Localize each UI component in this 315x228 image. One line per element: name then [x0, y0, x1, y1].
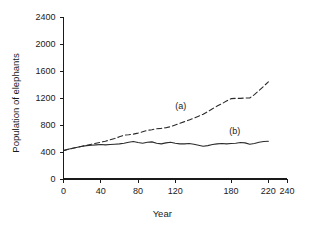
x-tick-label: 0 — [61, 186, 66, 196]
y-tick-label: 1600 — [35, 66, 55, 76]
x-tick-label: 120 — [168, 186, 183, 196]
series-annotation: (a) — [175, 101, 186, 111]
y-tick-label: 800 — [40, 120, 55, 130]
chart-figure: 04008001200160020002400 0408012018022024… — [0, 0, 315, 228]
y-tick-label: 0 — [50, 174, 55, 184]
y-tick-label: 2000 — [35, 39, 55, 49]
x-tick-label: 40 — [96, 186, 106, 196]
y-tick-label: 1200 — [35, 93, 55, 103]
x-tick-label: 180 — [224, 186, 239, 196]
x-tick-label: 240 — [279, 186, 294, 196]
y-tick-label: 400 — [40, 147, 55, 157]
y-axis-title: Population of elephants — [10, 53, 21, 153]
x-tick-label: 80 — [133, 186, 143, 196]
y-tick-label: 2400 — [35, 12, 55, 22]
x-tick-label: 220 — [261, 186, 276, 196]
x-axis-title: Year — [153, 208, 172, 219]
population-of-elephants-line-chart: 04008001200160020002400 0408012018022024… — [0, 0, 315, 228]
series-annotation: (b) — [229, 126, 240, 136]
